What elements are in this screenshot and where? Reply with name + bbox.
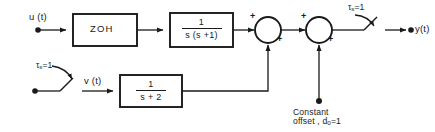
sum2-sign-left: + (301, 12, 306, 21)
sum2-sign-bottom: + (328, 35, 333, 44)
mid-signal-label: v (t) (84, 76, 101, 86)
switch-output-actuation-arrow (355, 15, 374, 26)
plant-transfer-function: 1 s (s +1) (170, 17, 233, 40)
plant-fraction-bar (182, 28, 222, 29)
plant-numerator: 1 (170, 17, 233, 27)
output-node-dot (408, 27, 414, 33)
switch-output-value: =1 (354, 2, 364, 12)
wire-second-block-to-sum1 (182, 45, 268, 91)
block-diagram-canvas: u (t) ZOH 1 s (s +1) 1 s + 2 v (t) y(t) … (0, 0, 435, 132)
switch-input-label: τs=1 (36, 61, 52, 71)
switch-output-label: τs=1 (348, 3, 364, 13)
switch-input-value: =1 (42, 60, 52, 70)
input-signal-label: u (t) (29, 12, 47, 22)
constant-offset-value: =1 (331, 116, 341, 126)
plant-denominator: s (s +1) (170, 30, 233, 40)
sum1-sign-left: + (250, 12, 255, 21)
zoh-block-label: ZOH (90, 24, 114, 34)
second-path-transfer-function: 1 s + 2 (120, 79, 182, 102)
second-path-fraction-bar (136, 90, 166, 91)
switch-input-blade[interactable] (60, 78, 73, 91)
output-signal-label: y(t) (415, 24, 430, 34)
sum1-sign-bottom: + (277, 35, 282, 44)
second-path-denominator: s + 2 (120, 92, 182, 102)
constant-offset-annotation: Constant offset , d0=1 (293, 108, 341, 127)
switch-output-blade[interactable] (364, 17, 377, 30)
switch-input-actuation-arrow (52, 66, 72, 79)
second-path-numerator: 1 (120, 79, 182, 89)
constant-offset-line2-prefix: offset , (293, 116, 320, 126)
constant-offset-line2: offset , d0=1 (293, 117, 341, 127)
